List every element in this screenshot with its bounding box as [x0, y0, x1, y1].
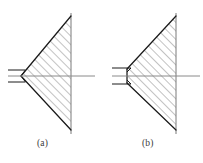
- figure-root: (a) (b): [0, 0, 203, 163]
- panel-b-group: [112, 12, 200, 136]
- panel-b-hatch-fill: [124, 12, 182, 136]
- wedge-diagram: [0, 0, 203, 163]
- panel-b-caption: (b): [142, 138, 154, 148]
- panel-a-caption: (a): [37, 138, 48, 148]
- panel-a-group: [8, 12, 95, 136]
- panel-a-hatch-fill: [18, 12, 76, 136]
